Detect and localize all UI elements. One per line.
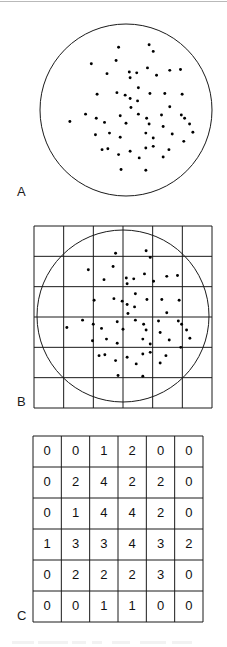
data-point bbox=[92, 323, 95, 326]
data-point bbox=[179, 68, 182, 71]
table-cell-value: 0 bbox=[157, 443, 164, 458]
data-point bbox=[116, 342, 119, 345]
data-point bbox=[95, 117, 98, 120]
data-point bbox=[180, 114, 183, 117]
data-point bbox=[116, 320, 119, 323]
data-point bbox=[182, 140, 185, 143]
data-point bbox=[125, 122, 128, 125]
data-point bbox=[160, 298, 163, 301]
data-point bbox=[149, 256, 152, 259]
table-cell-value: 4 bbox=[129, 536, 136, 551]
data-point bbox=[146, 66, 149, 69]
data-point bbox=[117, 153, 120, 156]
data-point bbox=[98, 354, 101, 357]
data-point bbox=[159, 331, 162, 334]
table-cell-value: 0 bbox=[72, 443, 79, 458]
data-point bbox=[168, 105, 171, 108]
data-point bbox=[81, 319, 84, 322]
data-point bbox=[188, 123, 191, 126]
table-cell-value: 2 bbox=[100, 567, 107, 582]
table-cell-value: 2 bbox=[129, 474, 136, 489]
data-point bbox=[126, 303, 129, 306]
data-point bbox=[171, 132, 174, 135]
data-point bbox=[135, 362, 138, 365]
panel-c-label: C bbox=[17, 608, 26, 623]
table-cell-value: 4 bbox=[129, 505, 136, 520]
data-point bbox=[143, 272, 146, 275]
data-point bbox=[133, 305, 136, 308]
table-cell-value: 0 bbox=[185, 567, 192, 582]
data-point bbox=[162, 125, 165, 128]
data-point bbox=[68, 120, 71, 123]
data-point bbox=[180, 323, 183, 326]
table-cell-value: 2 bbox=[72, 474, 79, 489]
data-point bbox=[103, 353, 106, 356]
data-point bbox=[120, 168, 123, 171]
data-point bbox=[168, 338, 171, 341]
table-cell-value: 1 bbox=[100, 598, 107, 613]
data-point bbox=[105, 338, 108, 341]
table-cell-value: 0 bbox=[72, 598, 79, 613]
table-cell-value: 3 bbox=[100, 536, 107, 551]
data-point bbox=[165, 275, 168, 278]
data-point bbox=[115, 59, 118, 62]
data-point bbox=[87, 268, 90, 271]
cropped-caption-remnant bbox=[12, 641, 192, 644]
data-point bbox=[96, 93, 99, 96]
data-point bbox=[136, 99, 139, 102]
data-point bbox=[148, 123, 151, 126]
data-point bbox=[149, 351, 152, 354]
data-point bbox=[114, 359, 117, 362]
table-cell-value: 0 bbox=[44, 567, 51, 582]
data-point bbox=[115, 91, 118, 94]
data-point bbox=[130, 106, 133, 109]
data-point bbox=[103, 121, 106, 124]
data-point bbox=[144, 147, 147, 150]
data-point bbox=[142, 323, 145, 326]
table-cell-value: 2 bbox=[185, 536, 192, 551]
data-point bbox=[127, 312, 130, 315]
data-point bbox=[84, 113, 87, 116]
data-point bbox=[144, 169, 147, 172]
data-point bbox=[134, 292, 137, 295]
table-cell-value: 3 bbox=[157, 567, 164, 582]
data-point bbox=[141, 375, 144, 378]
data-point bbox=[165, 311, 168, 314]
data-point bbox=[129, 76, 132, 79]
data-point bbox=[148, 92, 151, 95]
data-point bbox=[108, 132, 111, 135]
data-point bbox=[141, 338, 144, 341]
data-point bbox=[126, 282, 129, 285]
figure-quadrat-analysis: A B 001200024220014420133432022230001100… bbox=[0, 0, 227, 647]
data-point bbox=[119, 136, 122, 139]
table-cell-value: 1 bbox=[44, 536, 51, 551]
table-cell-value: 1 bbox=[100, 443, 107, 458]
data-point bbox=[125, 277, 128, 280]
table-cell-value: 0 bbox=[185, 474, 192, 489]
data-point bbox=[157, 320, 160, 323]
data-point bbox=[114, 252, 117, 255]
data-point bbox=[152, 50, 155, 53]
table-cell-value: 0 bbox=[185, 505, 192, 520]
data-point bbox=[124, 94, 127, 97]
data-point bbox=[122, 328, 125, 331]
data-point bbox=[129, 97, 132, 100]
data-point bbox=[141, 353, 144, 356]
data-point bbox=[176, 274, 179, 277]
table-cell-value: 1 bbox=[129, 598, 136, 613]
data-point bbox=[117, 374, 120, 377]
data-point bbox=[185, 329, 188, 332]
data-point bbox=[179, 346, 182, 349]
table-cell-value: 2 bbox=[157, 474, 164, 489]
data-point bbox=[121, 300, 124, 303]
data-point bbox=[134, 319, 137, 322]
table-cell-value: 0 bbox=[44, 598, 51, 613]
table-cell-value: 3 bbox=[72, 536, 79, 551]
data-point bbox=[181, 93, 184, 96]
table-cell-value: 0 bbox=[44, 443, 51, 458]
data-point bbox=[183, 117, 186, 120]
data-point bbox=[162, 156, 165, 159]
table-cell-value: 4 bbox=[100, 505, 107, 520]
data-point bbox=[160, 114, 163, 117]
table-cell-value: 1 bbox=[72, 505, 79, 520]
